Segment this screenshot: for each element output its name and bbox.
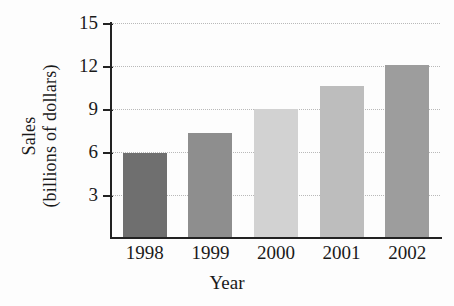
y-tick-label: 12: [58, 56, 98, 75]
x-tick-label-2002: 2002: [374, 243, 440, 262]
y-axis-title: Sales (billions of dollars): [17, 36, 63, 236]
bar-2002: [385, 65, 429, 238]
gridline: [112, 23, 440, 24]
bar-chart-figure: Sales (billions of dollars) 3691215 1998…: [0, 0, 454, 306]
plot-area: [112, 23, 440, 238]
y-axis-line: [110, 22, 112, 239]
x-tick-label-1998: 1998: [112, 243, 178, 262]
y-tick-label: 3: [58, 185, 98, 204]
y-tick-label: 15: [58, 13, 98, 32]
x-axis-title: Year: [0, 272, 454, 294]
bar-1998: [123, 153, 167, 238]
bar-2000: [254, 109, 298, 238]
bar-2001: [320, 86, 364, 238]
bar-1999: [188, 133, 232, 238]
x-axis-line: [110, 237, 442, 239]
y-axis-title-line-1: Sales: [19, 117, 40, 156]
y-tick-label: 9: [58, 99, 98, 118]
y-tick-label: 6: [58, 142, 98, 161]
x-tick-label-2001: 2001: [309, 243, 375, 262]
x-tick-label-1999: 1999: [177, 243, 243, 262]
x-tick-label-2000: 2000: [243, 243, 309, 262]
